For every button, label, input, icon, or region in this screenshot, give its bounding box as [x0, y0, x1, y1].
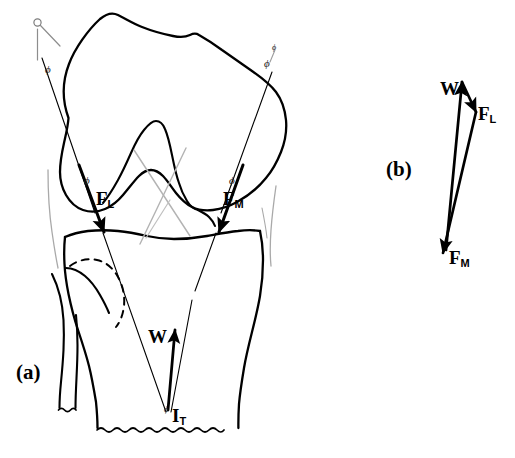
panel-b-FM-subscript: M — [461, 257, 470, 269]
fibula-outline — [52, 274, 64, 408]
tibia-right-outline — [238, 231, 263, 428]
FL-label: FL — [96, 189, 114, 208]
knee-force-diagram-svg — [0, 0, 515, 458]
medial-axis-line-lower-b — [171, 300, 192, 412]
tibia-bottom-wavy-cut — [97, 428, 224, 432]
soft-tissue-right-faint-2 — [262, 208, 267, 238]
panel-b-FL-vector[interactable] — [462, 82, 476, 112]
phi-mid-left-symbol: ϕ — [84, 175, 90, 186]
tibial-plateau — [65, 230, 260, 239]
fibula-bottom-wavy-cut — [59, 408, 77, 411]
tibial-tuberosity — [66, 268, 109, 313]
phi-top-right-symbol: ϕ — [264, 58, 270, 69]
W-letter: W — [148, 326, 167, 347]
FM-label: FM — [223, 189, 244, 208]
soft-tissue-left-faint — [48, 170, 58, 268]
lateral-axis-line-lower — [103, 233, 166, 412]
angle-origin-circle — [34, 19, 41, 26]
soft-tissue-right-faint — [270, 186, 276, 266]
panel-b-FL-label: FL — [478, 104, 496, 123]
angle-ray-oblique — [41, 26, 61, 47]
W-label: W — [148, 327, 167, 346]
panel-b-FL-subscript: L — [490, 113, 497, 125]
medial-axis-line-lower-a — [195, 233, 216, 291]
panel-b-label: (b) — [386, 159, 412, 180]
intercondylar-notch — [103, 121, 198, 210]
panel-b-W-letter: W — [440, 78, 459, 99]
FL-subscript: L — [108, 198, 115, 210]
IT-label: IT — [172, 406, 186, 425]
panel-a-anatomy — [48, 14, 286, 432]
FM-subscript: M — [235, 198, 244, 210]
panel-b-W-label: W — [440, 79, 459, 98]
fibula-inner-edge — [76, 315, 78, 408]
medial-condyle-ridge — [198, 210, 215, 226]
FM-letter: F — [223, 188, 235, 209]
phi-top-left-symbol: ϕ — [45, 64, 51, 75]
panel-b-FM-vector[interactable] — [443, 112, 476, 253]
panel-b-FM-label: FM — [449, 248, 470, 267]
phi-upper-right-tick-symbol: ϕ — [272, 44, 276, 52]
femur-outline — [60, 14, 286, 212]
phi-bottom-symbol: ϕ — [164, 406, 168, 414]
phi-mid-right-symbol: ϕ — [229, 175, 235, 186]
panel-b-FM-letter: F — [449, 247, 461, 268]
panel-b-force-triangle — [443, 82, 476, 253]
IT-subscript: T — [179, 415, 186, 427]
figure-root: (a) (b) FL FM W IT W FL FM ϕ ϕ ϕ ϕ ϕ ϕ — [0, 0, 515, 458]
panel-a-label: (a) — [16, 362, 41, 383]
panel-b-FL-letter: F — [478, 103, 490, 124]
FL-letter: F — [96, 188, 108, 209]
